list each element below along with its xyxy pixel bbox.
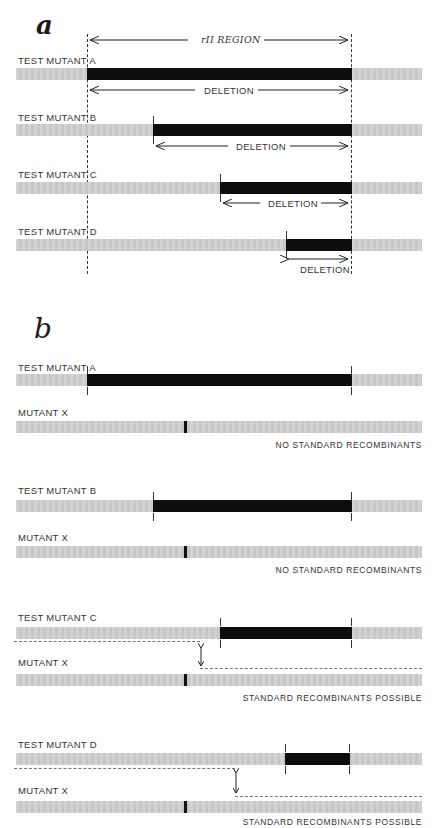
deletion-label-c: DELETION xyxy=(265,198,321,209)
cross-d-x-mutation-marker xyxy=(184,801,187,813)
cross-a-tick-ll xyxy=(87,387,88,395)
cross-a-tick-lr xyxy=(351,387,352,395)
row-a-label: TEST MUTANT A xyxy=(18,55,96,66)
tick-c-end xyxy=(220,194,221,202)
row-b-label: TEST MUTANT B xyxy=(18,112,96,123)
cross-a-tick-ul xyxy=(87,366,88,374)
cross-d-tick-ul xyxy=(285,744,286,752)
cross-d-x-bar xyxy=(16,801,422,813)
deletion-segment-a xyxy=(87,68,352,80)
cross-b-tick-ur xyxy=(351,492,352,500)
cross-a-x-label: MUTANT X xyxy=(18,407,68,418)
deletion-label-d: DELETION xyxy=(300,264,350,275)
tick-b-end xyxy=(153,136,154,144)
cross-d-deletion xyxy=(285,753,350,765)
cross-d-tick-lr xyxy=(349,766,350,774)
deletion-label-b: DELETION xyxy=(232,141,290,152)
row-d-label: TEST MUTANT D xyxy=(18,226,97,237)
deletion-label-a: DELETION xyxy=(200,85,258,96)
deletion-segment-b xyxy=(153,124,352,136)
rii-region-label: rII REGION xyxy=(198,34,264,45)
cross-b-result: NO STANDARD RECOMBINANTS xyxy=(276,565,422,575)
rii-region-text: rII REGION xyxy=(201,34,261,45)
cross-d-test-label: TEST MUTANT D xyxy=(18,739,97,750)
cross-b-x-bar xyxy=(16,546,422,558)
cross-a-tick-ur xyxy=(351,366,352,374)
cross-b-x-label: MUTANT X xyxy=(18,532,68,543)
cross-d-result: STANDARD RECOMBINANTS POSSIBLE xyxy=(243,817,422,827)
cross-c-crossover-upper xyxy=(14,641,200,642)
cross-a-x-mutation-marker xyxy=(184,421,187,433)
cross-b-tick-ul xyxy=(153,492,154,500)
cross-c-tick-ul xyxy=(220,618,221,626)
chromosome-bar-c xyxy=(16,182,422,194)
deletion-segment-d xyxy=(286,239,352,251)
cross-a-x-bar xyxy=(16,421,422,433)
panel-b-letter: b xyxy=(34,312,52,345)
cross-d-crossover-upper xyxy=(14,768,235,769)
cross-c-test-label: TEST MUTANT C xyxy=(18,612,97,623)
row-c-label: TEST MUTANT C xyxy=(18,169,97,180)
cross-b-deletion xyxy=(153,500,352,512)
cross-c-tick-ur xyxy=(351,618,352,626)
cross-c-tick-lr xyxy=(351,640,352,648)
cross-b-test-label: TEST MUTANT B xyxy=(18,485,96,496)
cross-b-x-mutation-marker xyxy=(184,546,187,558)
cross-a-test-label: TEST MUTANT A xyxy=(18,362,96,373)
cross-c-x-label: MUTANT X xyxy=(18,657,68,668)
cross-a-result: NO STANDARD RECOMBINANTS xyxy=(276,440,422,450)
cross-c-x-bar xyxy=(16,674,422,686)
cross-c-crossover-lower xyxy=(200,668,422,669)
cross-d-tick-ll xyxy=(285,766,286,774)
tick-b-start xyxy=(153,116,154,124)
cross-d-crossover-lower xyxy=(235,796,422,797)
tick-c-start xyxy=(220,174,221,182)
cross-b-tick-lr xyxy=(351,513,352,521)
cross-b-tick-ll xyxy=(153,513,154,521)
deletion-segment-c xyxy=(220,182,352,194)
cross-d-test-bar xyxy=(16,753,422,765)
cross-c-test-bar xyxy=(16,627,422,639)
tick-d-start xyxy=(286,231,287,239)
cross-c-x-mutation-marker xyxy=(184,674,187,686)
cross-d-tick-ur xyxy=(349,744,350,752)
cross-a-deletion xyxy=(87,374,352,386)
cross-d-x-label: MUTANT X xyxy=(18,785,68,796)
tick-d-end xyxy=(286,251,287,259)
cross-c-result: STANDARD RECOMBINANTS POSSIBLE xyxy=(243,693,422,703)
cross-c-tick-ll xyxy=(220,640,221,648)
chromosome-bar-d xyxy=(16,239,422,251)
cross-c-deletion xyxy=(220,627,352,639)
